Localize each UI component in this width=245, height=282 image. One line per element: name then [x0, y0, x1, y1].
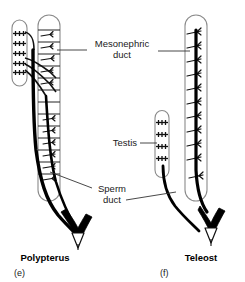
mesonephric-duct-label-line2: duct	[113, 49, 131, 60]
urogenital-diagram-svg: Polypterus (e)	[0, 0, 245, 282]
figure-canvas: Polypterus (e)	[0, 0, 245, 282]
sperm-duct-label-line2: duct	[103, 194, 121, 205]
panel-letter-e: (e)	[14, 268, 25, 278]
lobule-bar	[13, 51, 26, 56]
lobule-bar	[13, 61, 26, 66]
panel-caption-polypterus: Polypterus	[20, 252, 69, 263]
panel-letter-f: (f)	[160, 268, 169, 278]
lobule-bar	[13, 31, 26, 36]
sperm-duct-label-line1: Sperm	[98, 183, 126, 194]
testis-label: Testis	[113, 137, 138, 148]
panel-caption-teleost: Teleost	[185, 252, 218, 263]
lobule-bar	[13, 70, 26, 75]
mesonephric-duct-label-line1: Mesonephric	[95, 38, 150, 49]
lobule-bar	[13, 41, 26, 46]
